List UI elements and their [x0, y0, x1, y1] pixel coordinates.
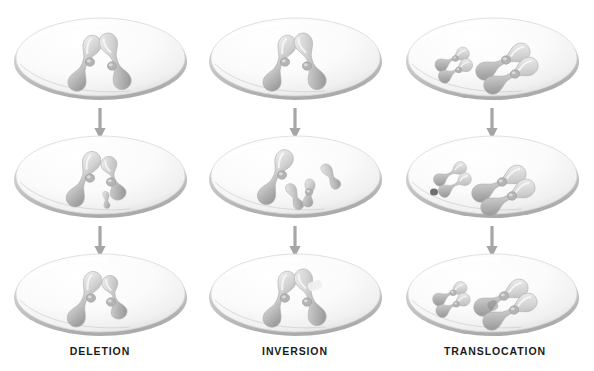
- arrow-inversion-1-to-2: [289, 108, 300, 139]
- cell-deletion-stage-2: [14, 136, 187, 218]
- centromere-icon: [107, 62, 116, 70]
- cell-deletion-stage-1: [14, 18, 187, 100]
- column-deletion: [14, 18, 187, 336]
- cell-translocation-stage-3: [406, 254, 579, 336]
- arrow-translocation-1-to-2: [486, 108, 497, 139]
- centromere-icon: [507, 192, 516, 200]
- cell-inversion-stage-2: [209, 136, 382, 218]
- centromere-icon: [280, 294, 289, 302]
- cell-inversion-stage-1: [209, 18, 382, 100]
- caption-inversion: INVERSION: [215, 345, 375, 357]
- dark-fragment: [430, 188, 438, 195]
- centromere-icon: [453, 301, 459, 307]
- centromere-icon: [456, 67, 462, 73]
- centromere-icon: [85, 58, 94, 66]
- centromere-icon: [277, 171, 286, 179]
- cell-translocation-stage-1: [406, 18, 579, 100]
- centromere-icon: [501, 56, 510, 64]
- column-inversion: [209, 18, 382, 336]
- centromere-icon: [86, 294, 95, 302]
- centromere-icon: [302, 298, 311, 306]
- arrow-translocation-2-to-3: [486, 226, 497, 257]
- column-translocation: [406, 18, 579, 336]
- arrow-deletion-2-to-3: [94, 226, 105, 257]
- caption-deletion: DELETION: [20, 345, 180, 357]
- cell-translocation-stage-2: [406, 136, 579, 219]
- centromere-icon: [305, 189, 312, 196]
- centromere-icon: [510, 70, 519, 78]
- centromere-icon: [497, 178, 506, 186]
- centromere-icon: [106, 178, 115, 186]
- centromere-icon: [106, 298, 115, 306]
- arrow-deletion-1-to-2: [94, 108, 105, 139]
- centromere-icon: [452, 56, 458, 62]
- cell-deletion-stage-3: [14, 254, 187, 336]
- centromere-icon: [509, 306, 518, 314]
- chromosome-mutation-diagram: [0, 0, 594, 371]
- centromere-icon: [280, 58, 289, 66]
- centromere-icon: [85, 174, 94, 182]
- centromere-icon: [499, 292, 508, 300]
- centromere-icon: [302, 62, 311, 70]
- caption-translocation: TRANSLOCATION: [405, 345, 585, 357]
- cell-inversion-stage-3: [209, 254, 382, 336]
- arrow-inversion-2-to-3: [289, 226, 300, 257]
- centromere-icon: [450, 290, 456, 296]
